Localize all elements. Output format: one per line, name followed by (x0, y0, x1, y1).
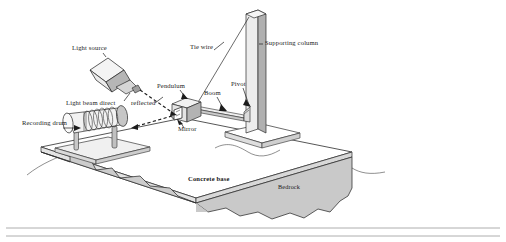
label-mirror: Mirror (178, 125, 197, 132)
label-supporting-column: Supporting column (265, 39, 319, 46)
pivot (244, 107, 250, 122)
label-pivot: Pivot (231, 80, 246, 87)
label-tie-wire: Tie wire (190, 43, 213, 50)
label-recording-drum: Recording drum (22, 119, 68, 126)
label-light-beam-direct: Light beam direct (66, 99, 115, 106)
footer-rules (6, 228, 500, 236)
leader-pendulum-arrow (181, 93, 188, 99)
column-side-face (258, 10, 266, 133)
label-bedrock: Bedrock (278, 183, 301, 190)
pivot-bracket (244, 107, 250, 122)
leader-light-source (103, 53, 106, 57)
label-light-source: Light source (72, 44, 107, 51)
light-source (90, 58, 141, 94)
label-reflected: reflected (131, 99, 156, 106)
label-concrete-base: Concrete base (188, 175, 230, 182)
leader-boom-arrow (219, 104, 227, 111)
label-pendulum: Pendulum (157, 82, 186, 89)
drum-post-right (112, 126, 117, 148)
leader-tie-wire (214, 42, 224, 50)
leader-reflected (155, 97, 163, 103)
label-boom: Boom (204, 89, 221, 96)
leader-beam-direct (124, 93, 130, 101)
figure-page: Light source Tie wire Supporting column … (0, 0, 506, 242)
concrete-base-slab (41, 118, 352, 219)
seismograph-diagram: Light source Tie wire Supporting column … (0, 0, 506, 242)
